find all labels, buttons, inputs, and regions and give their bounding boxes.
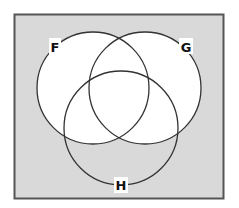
label-f: F — [51, 40, 60, 55]
label-h: H — [116, 178, 127, 193]
label-g: G — [181, 40, 192, 55]
venn-diagram: F G H — [0, 0, 239, 208]
